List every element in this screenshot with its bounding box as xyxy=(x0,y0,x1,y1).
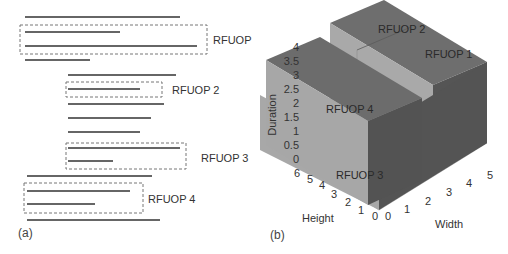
block-label-rfuop-1: RFUOP 1 xyxy=(425,48,472,60)
panel-a-schedule-diagram: RFUOP 1RFUOP 2RFUOP 3RFUOP 4 (a) xyxy=(0,0,254,254)
svg-text:6: 6 xyxy=(294,167,300,179)
group-box-rfuop-3 xyxy=(66,143,186,169)
svg-text:2: 2 xyxy=(425,195,431,207)
group-label-rfuop-2: RFUOP 2 xyxy=(172,84,219,96)
svg-text:4: 4 xyxy=(466,177,472,189)
panel-b-caption: (b) xyxy=(270,228,285,242)
svg-text:4: 4 xyxy=(319,179,325,191)
svg-text:1: 1 xyxy=(358,204,364,216)
panel-a-canvas: RFUOP 1RFUOP 2RFUOP 3RFUOP 4 xyxy=(0,0,254,254)
x-axis-label: Width xyxy=(435,218,463,230)
svg-text:0.5: 0.5 xyxy=(284,139,299,151)
group-box-rfuop-1 xyxy=(20,25,207,54)
svg-text:2.5: 2.5 xyxy=(284,83,299,95)
group-label-rfuop-4: RFUOP 4 xyxy=(148,193,195,205)
svg-text:5: 5 xyxy=(307,173,313,185)
block-label-rfuop-2: RFUOP 2 xyxy=(378,23,425,35)
panel-b-3d-chart: 4 3.5 3 2.5 2 1.5 1 0.5 0 Duration 6 5 4… xyxy=(254,0,508,254)
svg-text:5: 5 xyxy=(487,169,493,181)
block-label-rfuop-4: RFUOP 4 xyxy=(326,103,373,115)
svg-text:0: 0 xyxy=(372,210,378,222)
svg-text:3: 3 xyxy=(293,69,299,81)
svg-text:2: 2 xyxy=(293,97,299,109)
svg-text:2: 2 xyxy=(345,196,351,208)
group-label-rfuop-1: RFUOP 1 xyxy=(213,34,254,46)
svg-text:1: 1 xyxy=(404,203,410,215)
svg-text:1: 1 xyxy=(293,125,299,137)
svg-text:0: 0 xyxy=(293,153,299,165)
group-box-rfuop-4 xyxy=(24,183,143,213)
group-label-rfuop-3: RFUOP 3 xyxy=(201,152,248,164)
svg-text:0: 0 xyxy=(385,210,391,222)
svg-text:3: 3 xyxy=(446,186,452,198)
z-axis-label: Duration xyxy=(266,94,278,136)
svg-text:3: 3 xyxy=(331,188,337,200)
y-axis-label: Height xyxy=(302,212,334,224)
panel-a-caption: (a) xyxy=(18,226,33,240)
svg-text:3.5: 3.5 xyxy=(284,55,299,67)
block-label-rfuop-3: RFUOP 3 xyxy=(336,169,383,181)
svg-text:4: 4 xyxy=(293,41,299,53)
svg-text:1.5: 1.5 xyxy=(284,111,299,123)
panel-b-canvas: 4 3.5 3 2.5 2 1.5 1 0.5 0 Duration 6 5 4… xyxy=(254,0,508,254)
